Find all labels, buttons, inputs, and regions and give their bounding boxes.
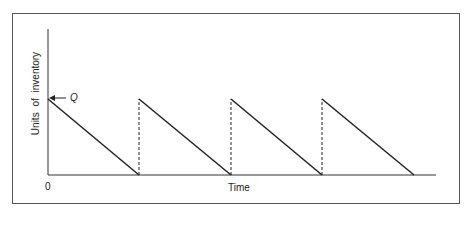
depletion-line-3 (231, 99, 322, 175)
y-axis-label: Units of inventory (30, 39, 41, 149)
depletion-line-2 (139, 99, 231, 175)
x-axis-label: Time (228, 182, 250, 193)
depletion-line-1 (48, 99, 139, 175)
depletion-line-4 (322, 99, 414, 175)
origin-label: 0 (45, 181, 51, 192)
peak-q-label: Q (70, 92, 78, 103)
